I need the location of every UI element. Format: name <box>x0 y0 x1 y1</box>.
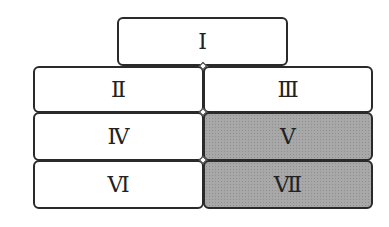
box-VI: Ⅵ <box>33 160 204 209</box>
box-IV-label: Ⅳ <box>108 124 130 149</box>
box-II-label: Ⅱ <box>111 77 126 102</box>
box-VI-label: Ⅵ <box>107 172 129 197</box>
box-IV: Ⅳ <box>33 112 204 161</box>
box-V: Ⅴ <box>203 112 373 161</box>
box-V-label: Ⅴ <box>280 124 296 149</box>
box-VII-label: Ⅶ <box>274 172 302 197</box>
box-VII: Ⅶ <box>203 160 373 209</box>
box-I: Ⅰ <box>117 17 288 66</box>
box-I-label: Ⅰ <box>198 29 207 54</box>
box-III: Ⅲ <box>203 66 373 113</box>
box-III-label: Ⅲ <box>277 77 298 102</box>
box-II: Ⅱ <box>33 66 204 113</box>
